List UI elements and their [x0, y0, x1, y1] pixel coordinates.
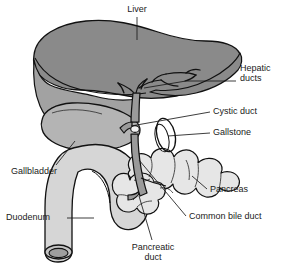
label-hepatic-ducts: Hepaticducts — [240, 63, 286, 83]
gallstone-ring — [152, 116, 178, 153]
duodenum-cut-rim-inner — [49, 248, 68, 257]
gallstone-ring-outer — [153, 116, 178, 153]
label-common-bile-duct: Common bile duct — [189, 211, 287, 221]
label-duodenum: Duodenum — [6, 212, 70, 222]
label-pancreatic-duct-line1: Pancreatic — [132, 242, 175, 252]
label-hepatic-ducts-line1: Hepatic — [240, 63, 271, 73]
label-hepatic-ducts-line2: ducts — [240, 73, 262, 83]
label-gallstone: Gallstone — [213, 127, 277, 137]
anatomy-figure: Liver Hepaticducts Cystic duct Gallstone… — [0, 0, 287, 273]
label-gallbladder: Gallbladder — [11, 166, 83, 176]
label-pancreas: Pancreas — [210, 184, 274, 194]
label-pancreatic-duct-line2: duct — [144, 252, 161, 262]
label-cystic-duct: Cystic duct — [213, 106, 285, 116]
common-hepatic-duct-path — [131, 93, 140, 122]
label-liver: Liver — [113, 4, 161, 14]
gallstone-in-duct — [131, 126, 140, 133]
label-pancreatic-duct: Pancreaticduct — [122, 242, 184, 262]
